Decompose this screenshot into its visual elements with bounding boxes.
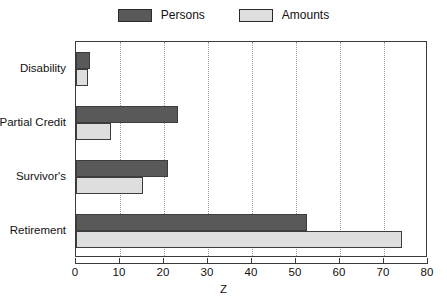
x-tick-10 bbox=[119, 258, 120, 264]
x-tick-40 bbox=[251, 258, 252, 264]
category-label-3: Retirement bbox=[10, 224, 66, 236]
gridline bbox=[340, 42, 341, 256]
x-tick-label-80: 80 bbox=[421, 266, 434, 278]
bar-persons-2 bbox=[76, 160, 168, 177]
x-tick-50 bbox=[295, 258, 296, 264]
x-tick-0 bbox=[75, 258, 76, 264]
chart-legend: Persons Amounts bbox=[0, 9, 447, 22]
category-label-0: Disability bbox=[20, 62, 66, 74]
x-axis-title: Z bbox=[0, 283, 447, 295]
x-tick-label-60: 60 bbox=[333, 266, 346, 278]
bar-amounts-2 bbox=[76, 177, 143, 194]
x-tick-label-30: 30 bbox=[201, 266, 214, 278]
x-tick-label-40: 40 bbox=[245, 266, 258, 278]
x-tick-20 bbox=[163, 258, 164, 264]
x-tick-70 bbox=[383, 258, 384, 264]
x-tick-30 bbox=[207, 258, 208, 264]
plot-area bbox=[75, 41, 427, 257]
x-tick-80 bbox=[427, 258, 428, 264]
bar-amounts-3 bbox=[76, 231, 402, 248]
legend-swatch-persons bbox=[118, 9, 152, 22]
category-label-1: Partial Credit bbox=[0, 116, 66, 128]
legend-entry-persons: Persons bbox=[118, 9, 205, 22]
x-tick-label-10: 10 bbox=[113, 266, 126, 278]
x-tick-label-20: 20 bbox=[157, 266, 170, 278]
legend-entry-amounts: Amounts bbox=[239, 9, 329, 22]
legend-swatch-amounts bbox=[239, 9, 273, 22]
bar-persons-3 bbox=[76, 214, 307, 231]
gridline bbox=[384, 42, 385, 256]
x-tick-label-70: 70 bbox=[377, 266, 390, 278]
x-tick-60 bbox=[339, 258, 340, 264]
legend-label-amounts: Amounts bbox=[282, 9, 329, 22]
x-tick-label-0: 0 bbox=[72, 266, 78, 278]
category-label-2: Survivor's bbox=[16, 170, 66, 182]
bar-amounts-1 bbox=[76, 123, 111, 140]
bar-chart: Persons Amounts DisabilityPartial Credit… bbox=[0, 0, 447, 305]
legend-label-persons: Persons bbox=[161, 9, 205, 22]
x-tick-label-50: 50 bbox=[289, 266, 302, 278]
bar-amounts-0 bbox=[76, 69, 88, 86]
bar-persons-0 bbox=[76, 52, 90, 69]
bar-persons-1 bbox=[76, 106, 178, 123]
